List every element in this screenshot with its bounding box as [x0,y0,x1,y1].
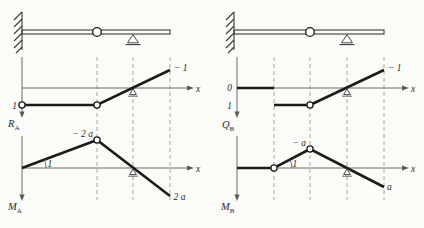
qb-quantity-label: QB [222,119,235,133]
hinge-icon [306,28,315,37]
fixed-wall-hatch-icon [14,12,22,53]
fixed-wall-hatch-icon [226,12,234,53]
qb-x-axis-label: x [410,84,416,94]
hatch-line [14,33,22,41]
qb-end-value: − 1 [388,63,402,73]
mb-influence-plot: x 1 − a a MB [220,136,416,215]
ra-influence-plot: x 1 − 1 RA [7,57,201,132]
qb-zero-value: 0 [227,83,232,93]
hatch-line [226,33,234,41]
hatch-line [226,12,234,20]
qb-one-value: 1 [227,101,232,111]
ra-influence-line [22,70,170,105]
ra-x-axis-label: x [195,84,201,94]
hatch-line [228,47,234,53]
hatch-line [14,12,22,20]
ma-x-axis-arrow-icon [187,166,194,171]
mb-peak-value: − a [292,138,306,148]
ma-peak-node [94,137,100,143]
influence-lines-figure: x 1 − 1 RA x 1 − 2 a 2 a MA [0,0,424,228]
hatch-line [14,19,22,27]
mb-section-node [271,165,277,171]
ra-quantity-label: RA [7,118,19,132]
ra-origin-node [19,102,25,108]
mb-end-value: a [387,182,392,192]
ma-value-axis-arrow-icon [19,195,24,202]
ra-x-axis-arrow-icon [187,86,194,91]
ma-influence-plot: x 1 − 2 a 2 a MA [7,129,201,215]
qb-influence-plot: x 0 1 − 1 QB [222,57,416,133]
mb-x-axis-label: x [410,164,416,174]
support-triangle [128,35,139,43]
ra-end-value: − 1 [174,63,188,73]
left-beam-sketch [14,12,170,53]
mb-quantity-label: MB [220,201,235,215]
mb-x-axis-arrow-icon [402,166,409,171]
hatch-line [226,19,234,27]
ra-hinge-node [94,102,100,108]
ma-slope-arc-icon [45,160,47,168]
ra-value-axis-arrow-icon [19,112,24,119]
hinge-icon [93,28,102,37]
hatch-line [14,26,22,34]
qb-value-axis-arrow-icon [234,112,239,119]
figure-canvas: x 1 − 1 RA x 1 − 2 a 2 a MA [0,0,424,228]
ma-end-value: 2 a [174,192,186,202]
ma-peak-value: − 2 a [72,129,93,139]
roller-support-icon [126,35,141,45]
hatch-line [14,40,22,48]
ma-quantity-label: MA [7,201,22,215]
support-triangle [342,35,353,43]
hatch-line [226,26,234,34]
ra-start-value: 1 [12,101,17,111]
qb-hinge-node [307,102,313,108]
roller-support-icon [340,35,355,45]
mb-value-axis-arrow-icon [234,195,239,202]
mb-peak-node [307,146,313,152]
left-guide-lines [97,57,170,200]
hatch-line [16,47,22,53]
ma-slope-label: 1 [48,159,53,169]
right-beam-sketch [226,12,384,53]
ma-x-axis-label: x [195,164,201,174]
mb-slope-label: 1 [293,159,298,169]
hatch-line [226,40,234,48]
qb-x-axis-arrow-icon [402,86,409,91]
